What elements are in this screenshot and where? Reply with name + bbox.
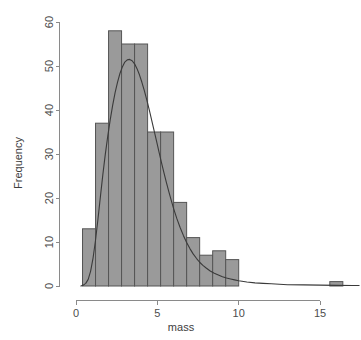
histogram-bar [187,238,200,286]
x-axis-tick-label: 10 [233,307,245,319]
y-axis-tick-label: 40 [43,104,55,116]
histogram-bar [161,132,174,286]
x-axis-tick-label: 5 [154,307,160,319]
y-axis-tick-label: 10 [43,236,55,248]
histogram-bar [122,44,135,286]
y-axis-tick-label: 20 [43,192,55,204]
x-axis-tick-label: 0 [73,307,79,319]
y-axis-tick-label: 30 [43,148,55,160]
histogram-plot-area: 0102030405060 051015 mass Frequency [0,0,361,340]
histogram-figure: 0102030405060 051015 mass Frequency [0,0,361,340]
x-axis-tick-label: 15 [314,307,326,319]
histogram-bar [226,260,239,286]
histogram-bar [148,132,161,286]
histogram-bar [213,251,226,286]
y-axis-tick-label: 50 [43,60,55,72]
y-axis-tick-label: 0 [43,283,55,289]
x-axis-title: mass [168,321,195,333]
y-axis-title: Frequency [12,137,24,189]
histogram-bar [200,255,213,286]
histogram-bar [109,31,122,286]
y-axis-tick-label: 60 [43,16,55,28]
